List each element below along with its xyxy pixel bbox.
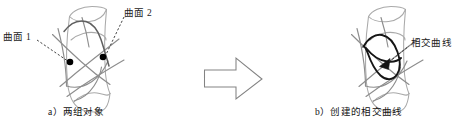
surface-1-tube-b (365, 7, 409, 113)
intersection-curve-label: 相交曲线 (411, 39, 452, 49)
surface-1-marker-dot (67, 59, 74, 66)
surface-2-marker-dot (100, 54, 107, 61)
figure-container: 曲面 1 曲面 2 相交曲线 a）两组对象 b）创建的相交曲线 (0, 0, 463, 127)
panel-a-caption: a）两组对象 (48, 108, 104, 118)
surface-2-leader-line (106, 17, 124, 55)
panel-b-caption: b）创建的相交曲线 (315, 108, 402, 118)
panel-b-geometry (352, 7, 424, 113)
panel-a-geometry (37, 7, 124, 113)
surface-1-label: 曲面 1 (3, 33, 31, 43)
surface-2-label: 曲面 2 (124, 9, 152, 19)
surface-2-sweep-b (352, 18, 424, 102)
right-block-arrow-icon (205, 58, 263, 99)
surface-2-sweep (53, 18, 125, 102)
